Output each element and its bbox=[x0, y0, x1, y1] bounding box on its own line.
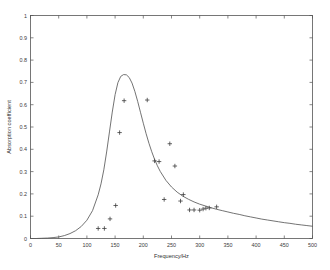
absorption-coefficient-chart: 050100150200250300350400450500 00.10.20.… bbox=[0, 0, 330, 270]
y-tick-label: 0.5 bbox=[20, 124, 28, 130]
x-tick-label: 250 bbox=[167, 242, 176, 248]
plot-background bbox=[31, 16, 313, 239]
x-tick-label: 450 bbox=[280, 242, 289, 248]
chart-page: 050100150200250300350400450500 00.10.20.… bbox=[0, 0, 330, 270]
y-tick-label: 1 bbox=[24, 13, 27, 19]
x-tick-label: 200 bbox=[139, 242, 148, 248]
y-tick-label: 0.7 bbox=[20, 79, 28, 85]
x-tick-label: 0 bbox=[29, 242, 32, 248]
y-tick-label: 0.6 bbox=[20, 102, 28, 108]
y-tick-label: 0.2 bbox=[20, 191, 28, 197]
x-tick-label: 350 bbox=[223, 242, 232, 248]
x-tick-label: 50 bbox=[56, 242, 62, 248]
plot-area: 050100150200250300350400450500 00.10.20.… bbox=[20, 13, 318, 249]
y-tick-label: 0.1 bbox=[20, 213, 28, 219]
y-tick-label: 0.4 bbox=[20, 146, 28, 152]
x-tick-label: 400 bbox=[252, 242, 261, 248]
y-tick-label: 0.9 bbox=[20, 35, 28, 41]
x-tick-label: 500 bbox=[308, 242, 317, 248]
y-axis-label: Absorption coefficient bbox=[6, 100, 12, 154]
y-tick-label: 0 bbox=[24, 236, 27, 242]
x-axis-label: Frequency/Hz bbox=[154, 253, 189, 259]
x-tick-label: 300 bbox=[195, 242, 204, 248]
x-tick-label: 100 bbox=[82, 242, 91, 248]
x-tick-label: 150 bbox=[111, 242, 120, 248]
y-tick-label: 0.8 bbox=[20, 57, 28, 63]
y-tick-label: 0.3 bbox=[20, 169, 28, 175]
